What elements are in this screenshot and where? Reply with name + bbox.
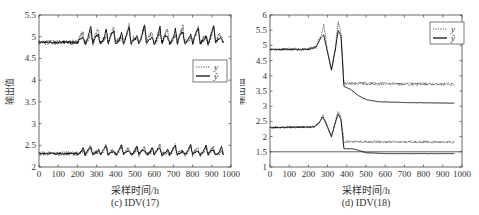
svg-text:ŷ: ŷ (450, 33, 455, 43)
x-tick-label: 500 (359, 169, 373, 179)
x-tick-label: 400 (109, 169, 123, 179)
chart-idv17: 0100200300400500600700800900100022.533.5… (0, 0, 240, 185)
xlabel-idv18: 采样时间/h (316, 182, 416, 197)
figure: 0100200300400500600700800900100022.533.5… (0, 0, 479, 215)
y-axis-label: 输出值 (240, 78, 246, 105)
y-tick-label: 2 (32, 162, 37, 172)
y-axis-label: 输出值 (4, 78, 15, 105)
series-lower-yhat (270, 114, 454, 154)
caption-idv18: (d) IDV(18) (316, 197, 416, 208)
x-tick-label: 600 (378, 169, 392, 179)
y-tick-label: 3 (32, 119, 37, 129)
y-tick-label: 2 (263, 132, 268, 142)
x-tick-label: 900 (436, 169, 450, 179)
y-tick-label: 5 (263, 40, 268, 50)
x-tick-label: 1000 (453, 169, 472, 179)
chart-idv18: 0100200300400500600700800900100011.522.5… (240, 0, 479, 185)
y-tick-label: 3.5 (256, 86, 268, 96)
y-tick-label: 5.5 (256, 25, 268, 35)
y-tick-label: 2.5 (25, 140, 37, 150)
x-tick-label: 300 (321, 169, 335, 179)
y-tick-label: 5 (32, 32, 37, 42)
x-tick-label: 800 (417, 169, 431, 179)
x-tick-label: 800 (186, 169, 200, 179)
x-tick-label: 500 (128, 169, 142, 179)
x-tick-label: 200 (302, 169, 316, 179)
x-tick-label: 400 (340, 169, 354, 179)
y-tick-label: 3.5 (25, 97, 37, 107)
series-upper-y (270, 22, 454, 86)
x-tick-label: 1000 (222, 169, 240, 179)
x-tick-label: 900 (205, 169, 219, 179)
y-tick-label: 4 (32, 75, 37, 85)
y-tick-label: 1 (263, 162, 268, 172)
y-tick-label: 1.5 (256, 147, 268, 157)
y-tick-label: 4 (263, 71, 268, 81)
xlabel-idv17: 采样时间/h (85, 182, 185, 197)
x-tick-label: 100 (51, 169, 65, 179)
x-tick-label: 300 (90, 169, 104, 179)
y-tick-label: 3 (263, 101, 268, 111)
y-tick-label: 4.5 (25, 53, 37, 63)
x-tick-label: 700 (167, 169, 181, 179)
legend: yŷ (193, 60, 227, 82)
y-tick-label: 6 (263, 10, 268, 20)
x-tick-label: 0 (268, 169, 273, 179)
x-tick-label: 700 (398, 169, 412, 179)
x-tick-label: 100 (282, 169, 296, 179)
legend: yŷ (430, 22, 464, 44)
x-tick-label: 200 (71, 169, 85, 179)
y-tick-label: 5.5 (25, 10, 37, 20)
x-tick-label: 0 (37, 169, 42, 179)
series-upper-yhat (270, 31, 454, 104)
y-tick-label: 4.5 (256, 56, 268, 66)
y-tick-label: 2.5 (256, 116, 268, 126)
svg-text:ŷ: ŷ (213, 71, 218, 81)
x-tick-label: 600 (147, 169, 161, 179)
caption-idv17: (c) IDV(17) (85, 197, 185, 208)
